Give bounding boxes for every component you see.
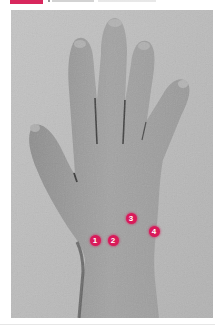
figure-label-badge: [10, 0, 43, 4]
hand-illustration: [11, 10, 213, 318]
figure-caption-cropped: [48, 0, 156, 2]
marker-4: 4: [149, 226, 160, 237]
marker-2: 2: [108, 235, 119, 246]
hand-dorsal-photo: [11, 10, 213, 318]
marker-3: 3: [126, 213, 137, 224]
bottom-divider: [0, 324, 215, 325]
marker-1: 1: [90, 235, 101, 246]
